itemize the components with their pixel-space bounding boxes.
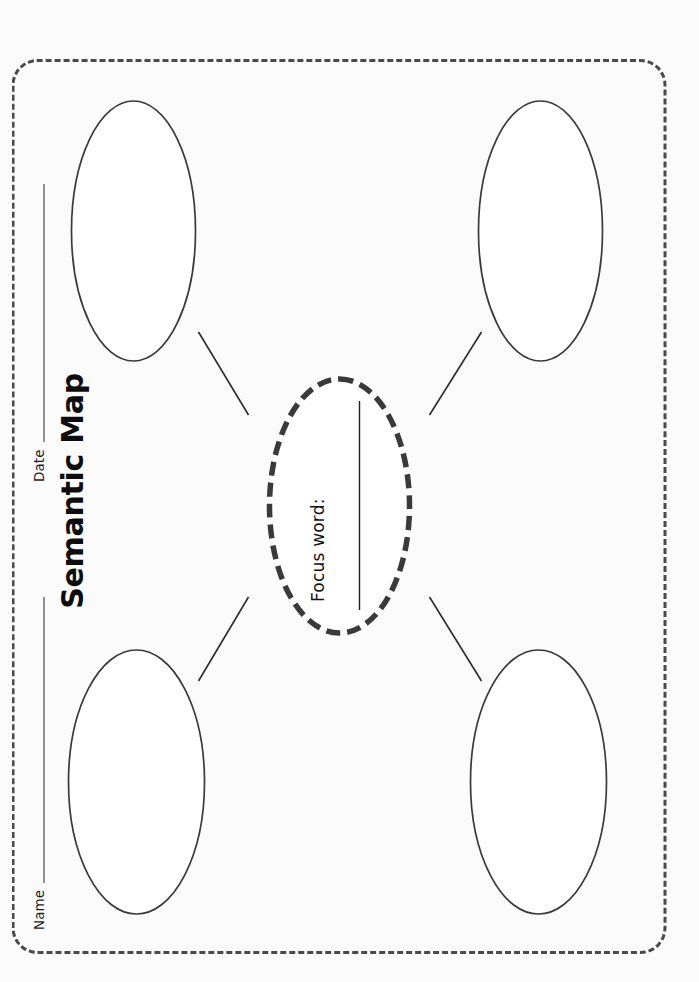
connector-bottom-right: [429, 332, 481, 415]
branch-oval-top-right: [71, 101, 195, 361]
branch-oval-bottom-left: [470, 650, 606, 914]
semantic-map-diagram: Focus word:: [11, 59, 666, 954]
focus-word-prompt: Focus word:: [307, 498, 327, 602]
worksheet-page: Name Date Semantic Map: [0, 0, 699, 982]
branch-oval-bottom-right: [478, 101, 602, 361]
connector-top-left: [198, 597, 248, 681]
connector-bottom-left: [429, 597, 481, 681]
branch-oval-top-left: [68, 650, 204, 914]
focus-word-oval: [269, 379, 409, 633]
connector-top-right: [198, 332, 248, 415]
